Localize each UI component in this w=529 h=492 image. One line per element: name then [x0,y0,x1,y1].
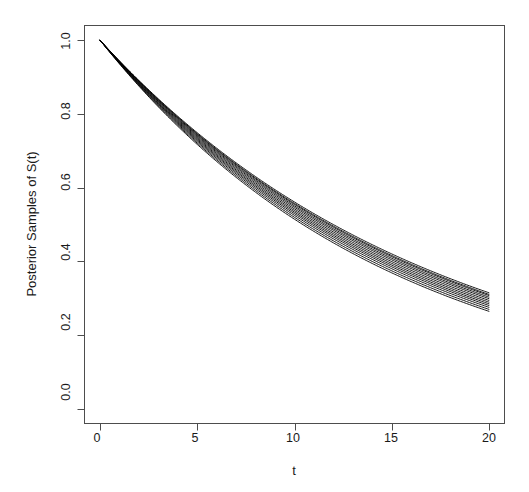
xtick-label: 5 [192,432,199,445]
posterior-survival-plot [0,0,529,492]
chart-figure: 0 5 10 15 20 0.0 0.2 0.4 0.6 0.8 1.0 t P… [0,0,529,492]
ytick-label: 1.0 [60,32,73,49]
xtick-label: 0 [94,432,101,445]
ytick-label: 0.0 [60,383,73,400]
ytick-label: 0.8 [60,102,73,119]
xtick-label: 10 [286,432,300,445]
xtick-label: 20 [482,432,496,445]
y-axis-title: Posterior Samples of S(t) [25,151,38,296]
plot-background [85,26,505,424]
ytick-label: 0.2 [60,313,73,330]
ytick-label: 0.4 [60,243,73,260]
x-axis-title: t [292,464,296,477]
ytick-label: 0.6 [60,173,73,190]
xtick-label: 15 [384,432,398,445]
